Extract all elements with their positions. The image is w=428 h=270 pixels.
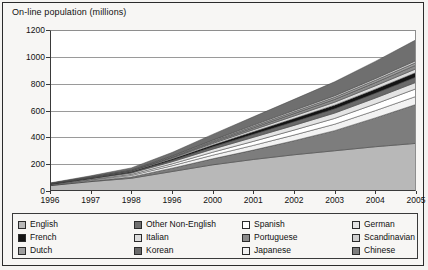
legend-item-portuguese[interactable]: Portuguese [242,233,352,242]
legend-item-scandinavian[interactable]: Scandinavian [352,233,415,242]
y-axis-tick-label: 200 [3,160,45,169]
x-axis-tick-mark [335,191,336,194]
legend-label: English [30,220,58,229]
x-axis-tick-label: 1996 [30,196,70,205]
x-axis-tick-label: 2000 [193,196,233,205]
x-axis-tick-label: 2003 [315,196,355,205]
legend-label: Dutch [30,246,52,255]
legend-swatch-icon [134,221,142,229]
legend-swatch-icon [352,247,360,255]
legend-item-english[interactable]: English [18,220,134,229]
y-axis-tick-mark [46,84,50,85]
legend-item-japanese[interactable]: Japanese [242,246,352,255]
y-axis-tick-label: 400 [3,133,45,142]
y-axis-tick-mark [46,30,50,31]
legend-label: Chinese [364,246,395,255]
plot-area [50,30,416,191]
legend-item-italian[interactable]: Italian [134,233,242,242]
y-axis-tick-label: 600 [3,107,45,116]
x-axis-tick-label: 1998 [111,196,151,205]
x-axis-tick-mark [50,191,51,194]
y-axis-tick-label: 1000 [3,53,45,62]
x-axis-tick-label: 2004 [355,196,395,205]
legend-swatch-icon [242,221,250,229]
legend-label: Japanese [254,246,291,255]
y-axis-tick-mark [46,137,50,138]
legend-swatch-icon [18,247,26,255]
y-axis-tick-mark [46,57,50,58]
legend-label: French [30,233,56,242]
x-axis-tick-mark [172,191,173,194]
x-axis-tick-mark [91,191,92,194]
legend-swatch-icon [242,247,250,255]
x-axis-tick-label: 1997 [71,196,111,205]
y-axis-tick-mark [46,111,50,112]
legend-item-spanish[interactable]: Spanish [242,220,352,229]
x-axis-tick-mark [375,191,376,194]
x-axis-tick-mark [416,191,417,194]
x-axis-tick-label: 2001 [233,196,273,205]
chart-legend: EnglishOther Non-EnglishSpanishGermanFre… [12,213,418,259]
x-axis-tick-mark [294,191,295,194]
legend-label: Scandinavian [364,233,415,242]
x-axis-tick-label: 2005 [396,196,428,205]
x-axis-tick-label: 2002 [274,196,314,205]
legend-swatch-icon [352,234,360,242]
legend-swatch-icon [134,247,142,255]
legend-item-dutch[interactable]: Dutch [18,246,134,255]
legend-swatch-icon [242,234,250,242]
legend-item-french[interactable]: French [18,233,134,242]
x-axis-tick-label: 1996 [152,196,192,205]
legend-item-korean[interactable]: Korean [134,246,242,255]
legend-item-german[interactable]: German [352,220,415,229]
x-axis-tick-mark [213,191,214,194]
legend-label: Portuguese [254,233,297,242]
legend-label: Spanish [254,220,285,229]
legend-swatch-icon [18,234,26,242]
chart-screenshot: On-line population (millions) 0200400600… [0,0,428,270]
legend-label: German [364,220,395,229]
x-axis-tick-mark [131,191,132,194]
legend-swatch-icon [134,234,142,242]
legend-label: Korean [146,246,173,255]
legend-swatch-icon [352,221,360,229]
y-axis-tick-label: 0 [3,187,45,196]
legend-swatch-icon [18,221,26,229]
y-axis-tick-mark [46,164,50,165]
stacked-area-series [50,30,416,191]
chart-title: On-line population (millions) [12,7,126,17]
y-axis-tick-label: 800 [3,80,45,89]
legend-item-other-non-english[interactable]: Other Non-English [134,220,242,229]
x-axis-tick-mark [253,191,254,194]
legend-label: Italian [146,233,169,242]
legend-label: Other Non-English [146,220,216,229]
chart-frame: On-line population (millions) 0200400600… [2,2,424,266]
legend-item-chinese[interactable]: Chinese [352,246,415,255]
y-axis-tick-label: 1200 [3,26,45,35]
